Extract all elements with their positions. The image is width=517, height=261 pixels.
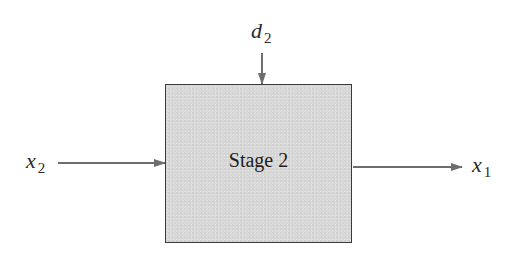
- block-diagram: Stage 2 d2 x2 x1: [0, 0, 517, 261]
- label-x1: x1: [472, 154, 491, 180]
- x1-subscript: 1: [484, 164, 492, 180]
- d2-subscript: 2: [264, 30, 272, 46]
- label-d2: d2: [251, 20, 272, 46]
- x2-symbol: x: [26, 148, 36, 173]
- d2-symbol: d: [251, 18, 262, 43]
- stage-label: Stage 2: [166, 149, 351, 172]
- stage-block: Stage 2: [165, 84, 352, 243]
- x1-symbol: x: [472, 152, 482, 177]
- label-x2: x2: [26, 150, 45, 176]
- x2-subscript: 2: [38, 160, 46, 176]
